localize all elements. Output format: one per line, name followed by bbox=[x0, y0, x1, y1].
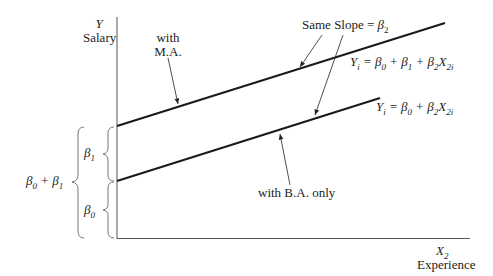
ma-equation: Yi = β0 + β1 + β2X2i bbox=[350, 55, 453, 74]
bracket-beta1 bbox=[103, 127, 114, 181]
beta1-label: β1 bbox=[84, 146, 95, 165]
arrow-ba-label bbox=[280, 134, 290, 185]
ba-label: with B.A. only bbox=[258, 186, 335, 200]
y-axis-label: Salary bbox=[83, 31, 116, 45]
ba-equation: Yi = β0 + β2X2i bbox=[376, 100, 453, 119]
bracket-beta0 bbox=[103, 182, 114, 238]
slope-note: Same Slope = β2 bbox=[302, 18, 389, 37]
diagram-canvas bbox=[0, 0, 493, 276]
bracket-beta0-beta1 bbox=[72, 127, 84, 238]
beta0-label: β0 bbox=[84, 203, 95, 222]
ma-label-line2: M.A. bbox=[150, 45, 186, 59]
arrow-ma-label bbox=[168, 58, 178, 104]
ba-line bbox=[117, 98, 380, 181]
x-axis-label: Experience bbox=[417, 258, 475, 272]
beta0-plus-beta1-label: β0 + β1 bbox=[26, 174, 63, 193]
y-axis-symbol: Y bbox=[93, 17, 105, 31]
arrow-slope-lower bbox=[315, 35, 343, 115]
ma-label-line1: with bbox=[150, 31, 186, 45]
